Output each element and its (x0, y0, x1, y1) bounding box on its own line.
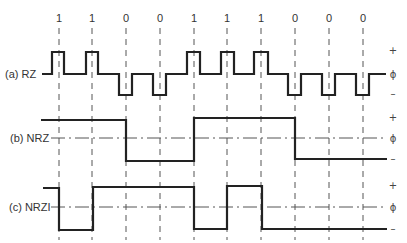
rz-waveform-group: (a) RZ + ϕ – (5, 45, 397, 99)
bit-label: 1 (224, 12, 230, 24)
minus-level-label: – (391, 88, 396, 99)
nrz-waveform (41, 118, 387, 161)
nrz-label: (b) NRZ (10, 132, 49, 144)
bit-label: 1 (56, 12, 62, 24)
minus-level-label: – (391, 153, 396, 164)
bit-gridlines (59, 28, 363, 240)
nrzi-waveform-group: (c) NRZI + ϕ – (9, 180, 397, 234)
encoding-diagram: 1 1 0 0 1 1 1 0 0 0 (a) RZ + ϕ – (b) NRZ… (0, 0, 407, 243)
bit-label: 0 (292, 12, 298, 24)
bit-label: 0 (157, 12, 163, 24)
bit-label: 1 (89, 12, 95, 24)
rz-label: (a) RZ (5, 68, 36, 80)
plus-level-label: + (389, 112, 397, 123)
rz-waveform (42, 52, 386, 95)
bit-label: 1 (258, 12, 264, 24)
zero-level-label: ϕ (390, 69, 397, 80)
bit-label: 0 (360, 12, 366, 24)
nrzi-label: (c) NRZI (9, 201, 51, 213)
bit-label: 0 (326, 12, 332, 24)
nrz-waveform-group: (b) NRZ + ϕ – (10, 112, 397, 164)
minus-level-label: – (391, 223, 396, 234)
zero-level-label: ϕ (390, 133, 397, 144)
bit-label: 1 (191, 12, 197, 24)
bit-labels: 1 1 0 0 1 1 1 0 0 0 (56, 12, 366, 24)
plus-level-label: + (389, 45, 397, 56)
bit-label: 0 (123, 12, 129, 24)
nrzi-waveform (43, 186, 387, 230)
zero-level-label: ϕ (390, 202, 397, 213)
plus-level-label: + (389, 180, 397, 191)
